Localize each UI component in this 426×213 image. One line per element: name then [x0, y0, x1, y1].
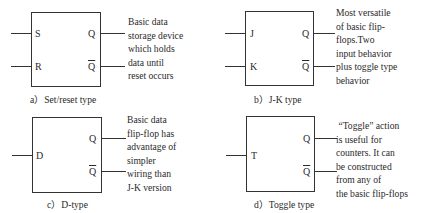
jk-caption: b）J-K type [254, 95, 302, 105]
pin-q-label: Q [303, 134, 310, 144]
jk-block [245, 11, 314, 86]
sr-block [31, 12, 101, 87]
pin-qbar-label: Q [89, 167, 96, 177]
output-line-qbar [102, 171, 126, 172]
pin-r-label: R [35, 62, 42, 72]
sr-description: Basic data storage device which holds da… [128, 15, 183, 83]
d-caption: c）D-type [47, 200, 88, 210]
input-line-s [11, 33, 32, 34]
output-line-q [102, 138, 126, 139]
pin-qbar-label: Q [302, 62, 309, 72]
input-line-j [225, 33, 246, 34]
pin-d-label: D [36, 151, 43, 161]
pin-q-label: Q [89, 134, 96, 144]
pin-qbar-label: Q [88, 62, 95, 72]
pin-q-label: Q [88, 29, 95, 39]
input-line-r [11, 66, 32, 67]
pin-t-label: T [251, 151, 257, 161]
input-line-d [12, 155, 33, 156]
output-line-q [314, 33, 335, 34]
t-description: “Toggle” action is useful for counters. … [336, 119, 408, 201]
output-line-qbar [315, 171, 337, 172]
output-line-qbar [101, 66, 125, 67]
flip-flop-diagram: S R Q Q Basic data storage device which … [0, 0, 426, 213]
pin-j-label: J [250, 29, 254, 39]
pin-q-label: Q [302, 29, 309, 39]
pin-s-label: S [35, 29, 41, 39]
output-line-q [315, 138, 337, 139]
pin-qbar-label: Q [303, 167, 310, 177]
output-line-q [101, 33, 125, 34]
jk-description: Most versatile of basic flip- flops.Two … [336, 6, 397, 88]
d-description: Basic data flip-flop has advantage of si… [127, 113, 176, 195]
sr-caption: a）Set/reset type [30, 95, 96, 105]
input-line-k [225, 66, 246, 67]
output-line-qbar [314, 66, 335, 67]
pin-k-label: K [250, 62, 257, 72]
input-line-t [226, 155, 247, 156]
t-caption: d）Toggle type [254, 200, 314, 210]
